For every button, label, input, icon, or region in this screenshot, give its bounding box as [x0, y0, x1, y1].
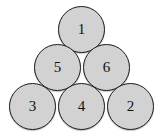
circle-node-6-label: 6: [103, 60, 111, 75]
circle-node-4[interactable]: 4: [58, 83, 105, 130]
circle-node-1-label: 1: [78, 22, 86, 37]
circle-node-5-label: 5: [54, 60, 62, 75]
circle-node-3-label: 3: [29, 99, 37, 114]
circle-node-3[interactable]: 3: [9, 83, 56, 130]
circle-arrangement-diagram: 1 5 6 3 4 2: [0, 0, 163, 134]
circle-node-4-label: 4: [78, 99, 86, 114]
circle-node-2[interactable]: 2: [107, 83, 154, 130]
circle-node-2-label: 2: [127, 99, 135, 114]
